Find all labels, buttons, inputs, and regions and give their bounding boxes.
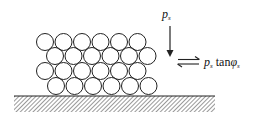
particle-circle — [129, 63, 146, 80]
particle-circle — [55, 63, 72, 80]
shear-double-arrow-icon — [178, 57, 200, 68]
particle-circle — [47, 48, 64, 65]
particle-circle — [92, 63, 109, 80]
tan-function: tan — [216, 55, 231, 69]
particle-circle — [37, 63, 54, 80]
particle-circle — [139, 48, 156, 65]
particle-circle — [66, 78, 83, 95]
shear-subscript: s — [210, 62, 213, 70]
particle-circle — [84, 48, 101, 65]
particle-circle — [102, 48, 119, 65]
particle-stack — [37, 34, 158, 95]
ground-hatching — [14, 96, 215, 112]
particle-circle — [65, 48, 82, 65]
normal-load-label: ps — [162, 7, 171, 22]
particle-circle — [140, 78, 157, 95]
particle-circle — [37, 34, 54, 51]
particle-circle — [48, 78, 65, 95]
particle-circle — [103, 78, 120, 95]
shear-force-label: ps tanφs — [204, 55, 240, 70]
normal-load-subscript: s — [168, 14, 171, 22]
friction-angle-subscript: s — [237, 62, 240, 70]
particle-circle — [111, 63, 128, 80]
particle-circle — [85, 78, 102, 95]
particle-circle — [122, 78, 139, 95]
particle-circle — [74, 63, 91, 80]
particle-circle — [121, 48, 138, 65]
down-arrow-icon — [167, 26, 174, 57]
